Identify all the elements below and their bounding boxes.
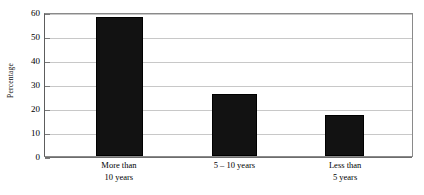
y-tick-label: 40 [31, 57, 40, 66]
plot-area [44, 13, 413, 157]
x-axis-label-line: 5 – 10 years [214, 160, 255, 172]
y-tick-label: 60 [31, 9, 40, 18]
x-axis-label-line: Less than [329, 160, 361, 172]
axis-tick [45, 158, 50, 159]
bar [96, 17, 144, 156]
y-tick-label: 50 [31, 33, 40, 42]
gridline [45, 157, 412, 159]
y-tick-label: 30 [31, 81, 40, 90]
y-axis-title-text: Percentage [6, 63, 15, 98]
x-axis-label-line: More than [101, 160, 136, 172]
y-tick-label: 20 [31, 105, 40, 114]
x-axis-label-line: 10 years [101, 172, 136, 184]
bar [325, 115, 365, 156]
bar-series [45, 14, 412, 156]
y-tick-label: 10 [31, 129, 40, 138]
x-axis-category-labels: More than10 years5 – 10 yearsLess than5 … [44, 160, 413, 195]
bar-chart: Percentage 0102030405060 More than10 yea… [0, 0, 424, 195]
bar [212, 94, 257, 156]
y-axis-title: Percentage [0, 0, 20, 160]
y-tick-label: 0 [36, 153, 41, 162]
x-axis-label-line: 5 years [329, 172, 361, 184]
x-axis-label: 5 – 10 years [214, 160, 255, 172]
x-axis-label: Less than5 years [329, 160, 361, 183]
x-axis-label: More than10 years [101, 160, 136, 183]
y-axis-tick-labels: 0102030405060 [18, 13, 40, 157]
